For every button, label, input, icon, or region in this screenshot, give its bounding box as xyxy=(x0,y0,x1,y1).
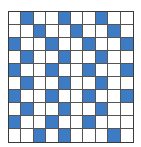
empty-cell xyxy=(9,25,21,38)
empty-cell xyxy=(21,25,33,38)
empty-cell xyxy=(121,51,133,64)
filled-cell xyxy=(96,12,108,25)
empty-cell xyxy=(9,51,21,64)
empty-cell xyxy=(21,129,33,142)
empty-cell xyxy=(9,77,21,90)
filled-cell xyxy=(21,77,33,90)
filled-cell xyxy=(83,116,95,129)
filled-cell xyxy=(21,103,33,116)
empty-cell xyxy=(121,77,133,90)
empty-cell xyxy=(108,12,120,25)
empty-cell xyxy=(46,103,58,116)
empty-cell xyxy=(9,129,21,142)
empty-cell xyxy=(121,25,133,38)
filled-cell xyxy=(46,38,58,51)
filled-cell xyxy=(59,103,71,116)
empty-cell xyxy=(21,64,33,77)
empty-cell xyxy=(9,103,21,116)
empty-cell xyxy=(59,64,71,77)
empty-cell xyxy=(108,103,120,116)
empty-cell xyxy=(83,103,95,116)
filled-cell xyxy=(59,129,71,142)
filled-cell xyxy=(59,51,71,64)
filled-cell xyxy=(96,77,108,90)
empty-cell xyxy=(83,51,95,64)
filled-cell xyxy=(96,51,108,64)
filled-cell xyxy=(108,25,120,38)
empty-cell xyxy=(83,12,95,25)
empty-cell xyxy=(96,38,108,51)
empty-cell xyxy=(96,25,108,38)
filled-cell xyxy=(108,129,120,142)
empty-cell xyxy=(71,103,83,116)
filled-cell xyxy=(96,103,108,116)
filled-cell xyxy=(46,64,58,77)
empty-cell xyxy=(46,12,58,25)
empty-cell xyxy=(9,12,21,25)
empty-cell xyxy=(121,116,133,129)
empty-cell xyxy=(34,90,46,103)
empty-cell xyxy=(59,38,71,51)
filled-cell xyxy=(9,90,21,103)
empty-cell xyxy=(83,25,95,38)
empty-cell xyxy=(108,38,120,51)
empty-cell xyxy=(46,77,58,90)
empty-cell xyxy=(108,51,120,64)
empty-cell xyxy=(121,103,133,116)
empty-cell xyxy=(108,116,120,129)
filled-cell xyxy=(46,90,58,103)
empty-cell xyxy=(121,12,133,25)
shaded-grid xyxy=(8,11,134,143)
empty-cell xyxy=(34,38,46,51)
filled-cell xyxy=(121,90,133,103)
filled-cell xyxy=(83,64,95,77)
filled-cell xyxy=(9,116,21,129)
filled-cell xyxy=(21,51,33,64)
empty-cell xyxy=(59,116,71,129)
empty-cell xyxy=(71,116,83,129)
empty-cell xyxy=(34,51,46,64)
empty-cell xyxy=(108,77,120,90)
empty-cell xyxy=(96,64,108,77)
empty-cell xyxy=(34,77,46,90)
empty-cell xyxy=(96,129,108,142)
empty-cell xyxy=(96,90,108,103)
empty-cell xyxy=(21,90,33,103)
empty-cell xyxy=(71,90,83,103)
empty-cell xyxy=(46,51,58,64)
filled-cell xyxy=(59,12,71,25)
empty-cell xyxy=(121,129,133,142)
empty-cell xyxy=(83,129,95,142)
empty-cell xyxy=(34,12,46,25)
empty-cell xyxy=(34,116,46,129)
empty-cell xyxy=(21,116,33,129)
filled-cell xyxy=(21,12,33,25)
empty-cell xyxy=(71,77,83,90)
empty-cell xyxy=(59,25,71,38)
filled-cell xyxy=(83,38,95,51)
empty-cell xyxy=(108,90,120,103)
empty-cell xyxy=(71,12,83,25)
filled-cell xyxy=(34,25,46,38)
empty-cell xyxy=(71,64,83,77)
empty-cell xyxy=(96,116,108,129)
filled-cell xyxy=(34,129,46,142)
filled-cell xyxy=(71,25,83,38)
empty-cell xyxy=(71,129,83,142)
filled-cell xyxy=(121,64,133,77)
empty-cell xyxy=(21,38,33,51)
empty-cell xyxy=(46,25,58,38)
empty-cell xyxy=(71,38,83,51)
filled-cell xyxy=(9,64,21,77)
empty-cell xyxy=(83,77,95,90)
filled-cell xyxy=(9,38,21,51)
empty-cell xyxy=(34,103,46,116)
filled-cell xyxy=(83,90,95,103)
empty-cell xyxy=(71,51,83,64)
filled-cell xyxy=(46,116,58,129)
filled-cell xyxy=(121,38,133,51)
empty-cell xyxy=(108,64,120,77)
empty-cell xyxy=(59,90,71,103)
empty-cell xyxy=(46,129,58,142)
empty-cell xyxy=(34,64,46,77)
